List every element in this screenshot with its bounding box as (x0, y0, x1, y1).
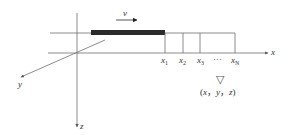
ellipsis: ··· (213, 55, 222, 64)
point-label-x1: x1 (161, 56, 168, 66)
coord-sep: ， (220, 87, 229, 97)
observer-coordinates: (x，y，z) (200, 88, 236, 97)
point-subscript: 3 (201, 60, 204, 66)
y-axis (21, 40, 105, 77)
z-axis-label: z (80, 122, 84, 131)
velocity-label: v (123, 9, 127, 18)
moving-load-bar (91, 30, 165, 35)
point-subscript: 1 (165, 60, 168, 66)
coord-sep: ， (207, 87, 216, 97)
point-subscript: N (235, 60, 239, 66)
paren-close: ) (233, 87, 236, 97)
observer-marker-icon: ▽ (216, 74, 224, 85)
point-label-x2: x2 (179, 56, 186, 66)
diagram-canvas (0, 0, 289, 135)
point-subscript: 2 (183, 60, 186, 66)
point-label-xN: xN (231, 56, 239, 66)
point-label-x3: x3 (197, 56, 204, 66)
y-axis-label: y (18, 80, 22, 89)
x-axis-label: x (271, 48, 275, 57)
